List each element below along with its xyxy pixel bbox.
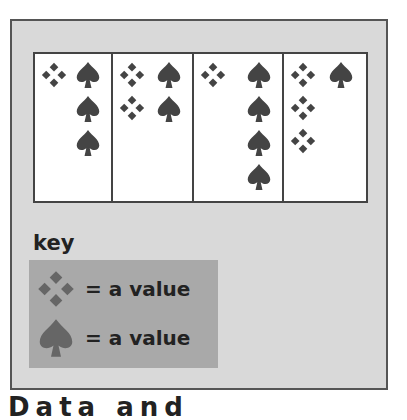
key-row-spade: = a value: [37, 318, 190, 358]
column-4: [284, 54, 366, 201]
spade-icon: [328, 61, 354, 89]
spade-icon: [156, 95, 182, 123]
column-3: [194, 54, 284, 201]
spade-icon: [75, 129, 101, 157]
spade-icon: [246, 95, 272, 123]
key-label-spade: = a value: [85, 326, 190, 350]
diamond-cluster-icon: [290, 128, 316, 156]
diamond-cluster-icon: [290, 95, 316, 123]
diamond-cluster-icon: [41, 62, 67, 90]
key-label-diamond: = a value: [85, 277, 190, 301]
spade-icon: [75, 95, 101, 123]
spade-icon: [37, 318, 75, 358]
column-1: [35, 54, 113, 201]
diamond-cluster-icon: [119, 62, 145, 90]
column-2: [113, 54, 194, 201]
key-title: key: [33, 231, 74, 255]
spade-icon: [156, 61, 182, 89]
key-legend: = a value = a value: [29, 260, 218, 368]
spade-icon: [246, 129, 272, 157]
key-row-diamond: = a value: [37, 270, 190, 308]
diamond-cluster-icon: [200, 62, 226, 90]
pictograph-table: [33, 52, 368, 203]
diamond-cluster-icon: [119, 95, 145, 123]
diamond-cluster-icon: [290, 62, 316, 90]
spade-icon: [75, 61, 101, 89]
cropped-heading: Data and: [8, 392, 189, 420]
spade-icon: [246, 61, 272, 89]
diamond-cluster-icon: [37, 270, 75, 308]
spade-icon: [246, 163, 272, 191]
